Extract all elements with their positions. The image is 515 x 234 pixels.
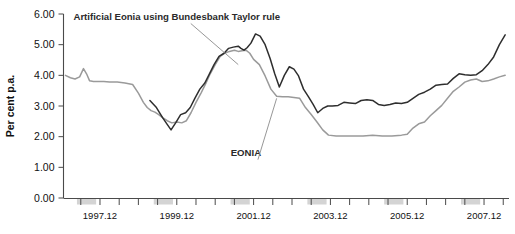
x-axis-band (154, 199, 173, 205)
annotation-leader-line (191, 24, 238, 65)
line-chart: 0.001.002.003.004.005.006.00 1997.121999… (0, 0, 515, 234)
series-line-artificial-eonia (150, 34, 505, 130)
x-axis-tick-label: 2005.12 (390, 210, 424, 221)
x-axis-shaded-bands (77, 199, 480, 205)
y-axis-title: Per cent p.a. (4, 75, 16, 138)
x-axis-tick-labels: 1997.121999.122001.122003.122005.122007.… (83, 210, 501, 221)
x-axis-band (384, 199, 403, 205)
annotation-leader-line (258, 98, 277, 159)
y-axis-tick-label: 0.00 (34, 192, 55, 204)
axes-group (59, 14, 510, 205)
y-axis-tick-label: 3.00 (34, 100, 55, 112)
x-axis-tick-label: 2003.12 (313, 210, 347, 221)
x-axis-band (231, 199, 250, 205)
y-axis-tick-label: 1.00 (34, 161, 55, 173)
x-axis-band (77, 199, 96, 205)
x-axis-tick-label: 1999.12 (160, 210, 194, 221)
x-axis-band (307, 199, 326, 205)
chart-container: 0.001.002.003.004.005.006.00 1997.121999… (0, 0, 515, 234)
y-axis-tick-label: 4.00 (34, 69, 55, 81)
y-axis-tick-label: 2.00 (34, 130, 55, 142)
series-line-eonia (65, 50, 505, 136)
x-axis-band (461, 199, 480, 205)
y-axis-tick-label: 5.00 (34, 38, 55, 50)
chart-annotations: Artificial Eonia using Bundesbank Taylor… (73, 11, 280, 160)
plot-series-group (65, 34, 505, 136)
annotation-artificial-eonia: Artificial Eonia using Bundesbank Taylor… (73, 11, 280, 22)
x-axis-tick-label: 1997.12 (83, 210, 117, 221)
annotation-eonia: EONIA (231, 147, 261, 158)
y-axis-tick-label: 6.00 (34, 8, 55, 20)
x-axis-tick-label: 2007.12 (467, 210, 501, 221)
x-axis-tick-label: 2001.12 (236, 210, 270, 221)
y-axis-tick-labels: 0.001.002.003.004.005.006.00 (34, 8, 55, 204)
